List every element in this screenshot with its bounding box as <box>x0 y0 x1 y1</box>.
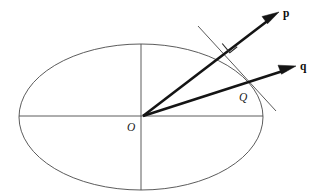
ellipse-vector-diagram: Ellipse with position vector q to point … <box>0 0 324 196</box>
vector-q-shaft <box>143 70 286 116</box>
label-origin: O <box>127 121 136 133</box>
label-vector-q: q <box>300 60 307 73</box>
tangent-line-at-q <box>198 26 276 111</box>
label-point-q: Q <box>239 91 248 103</box>
label-vector-p: p <box>283 7 289 20</box>
figure-container: Ellipse with position vector q to point … <box>0 0 324 196</box>
vector-p-shaft <box>143 19 270 116</box>
vector-p <box>143 12 279 116</box>
